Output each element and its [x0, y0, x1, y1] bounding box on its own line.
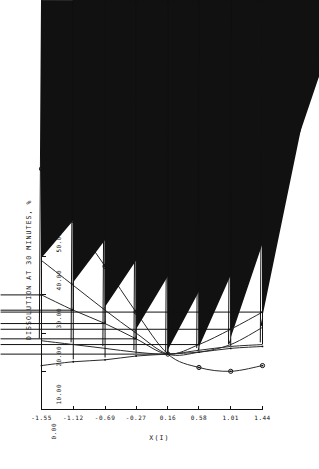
- plot-canvas: [0, 0, 319, 469]
- data-series: [39, 0, 319, 355]
- series-markers: [39, 0, 319, 354]
- series-line: [42, 346, 263, 365]
- chart-figure: (b) -CALCIUM PHOSPHATE TO LACTOSE RATIO-…: [0, 0, 319, 469]
